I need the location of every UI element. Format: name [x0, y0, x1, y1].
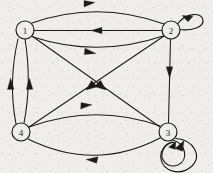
node-3[interactable]: 3	[159, 123, 177, 141]
node-2[interactable]: 2	[162, 21, 180, 39]
edge-path	[29, 115, 160, 127]
node-1[interactable]: 1	[16, 21, 34, 39]
node-label: 3	[166, 128, 171, 138]
edge-path	[24, 39, 28, 123]
node-label: 2	[169, 26, 174, 36]
edge-2-to-4	[29, 36, 164, 127]
self-loop-node-3-outer	[161, 139, 197, 172]
node-label: 1	[23, 26, 28, 36]
edge-path	[169, 39, 171, 123]
edge-2-to-1-middle	[34, 27, 162, 33]
edge-path	[32, 12, 164, 24]
graph-diagram: 1 2 3 4	[0, 0, 213, 173]
edge-path	[33, 36, 163, 47]
arrow-head	[86, 157, 98, 163]
edge-3-to-4-lower	[28, 138, 160, 163]
node-label: 4	[19, 128, 24, 138]
arrow-head	[84, 48, 96, 54]
edge-path	[28, 138, 160, 155]
edge-4-to-1-right	[24, 39, 33, 123]
graph-canvas: 1 2 3 4	[0, 0, 213, 173]
edge-path	[12, 39, 18, 124]
edge-2-to-3	[166, 39, 173, 123]
edge-4-to-3-upper	[29, 103, 160, 127]
arrow-head	[182, 16, 193, 22]
loop-path	[161, 139, 197, 172]
node-4[interactable]: 4	[12, 123, 30, 141]
arrow-head	[175, 141, 184, 152]
self-loop-node-2	[177, 14, 203, 29]
edge-1-to-2-upper	[32, 1, 164, 25]
arrow-head	[84, 1, 95, 8]
arrow-head	[166, 67, 173, 78]
arrow-head	[81, 103, 92, 110]
arrow-head	[91, 27, 102, 33]
edge-4-to-1-left	[7, 39, 18, 124]
edge-1-to-2-lower	[33, 36, 163, 55]
edge-path	[29, 36, 164, 127]
arrow-head	[26, 78, 33, 90]
